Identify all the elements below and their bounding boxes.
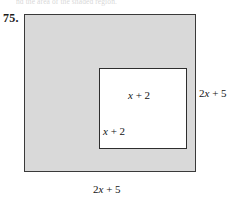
inner-label-bottom-variable: x — [103, 125, 108, 137]
outer-label-bottom-variable: x — [99, 183, 104, 195]
inner-label-right-variable: x — [128, 89, 133, 101]
inner-square-side-label-bottom: x + 2 — [103, 125, 125, 137]
outer-label-bottom-constant: 5 — [115, 183, 121, 195]
outer-square-side-label-right: 2x + 5 — [199, 87, 227, 99]
outer-label-bottom-operator: + — [106, 183, 112, 195]
inner-square-side-label-right: x + 2 — [128, 89, 150, 101]
outer-label-right-constant: 5 — [221, 87, 227, 99]
outer-square-side-label-bottom: 2x + 5 — [93, 183, 121, 195]
outer-label-right-operator: + — [212, 87, 218, 99]
problem-number: 75. — [3, 11, 19, 25]
cropped-instruction-text: nd the area of the shaded region. — [16, 0, 216, 6]
inner-label-bottom-constant: 2 — [120, 125, 126, 137]
outer-label-right-variable: x — [205, 87, 210, 99]
inner-label-right-operator: + — [136, 89, 142, 101]
inner-label-right-constant: 2 — [145, 89, 151, 101]
inner-label-bottom-operator: + — [111, 125, 117, 137]
outer-shaded-square — [24, 14, 196, 172]
